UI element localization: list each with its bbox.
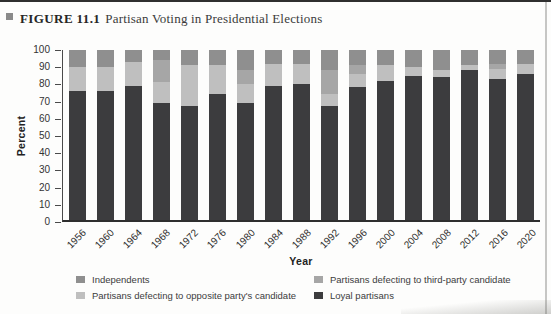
y-tick-mark	[55, 170, 61, 171]
x-tick-label-text: 1988	[289, 227, 313, 251]
x-tick-label-text: 1980	[233, 227, 257, 251]
bar-segment	[181, 106, 198, 220]
bar-segment	[125, 62, 142, 86]
x-tick-label-text: 1976	[205, 227, 229, 251]
y-tick-label-20: 20	[39, 183, 50, 193]
y-tick-label-10: 10	[39, 200, 50, 210]
bar-2016	[489, 50, 506, 220]
bar-segment	[461, 70, 478, 220]
y-tick-mark	[55, 50, 61, 51]
y-tick-mark	[55, 67, 61, 68]
bar-segment	[181, 50, 198, 65]
bar-segment	[69, 50, 86, 67]
bar-segment	[237, 70, 254, 84]
bar-2020	[517, 50, 534, 220]
legend-label: Loyal partisans	[330, 290, 394, 301]
x-tick-label-text: 2016	[486, 227, 510, 251]
third-party-defectors-swatch-icon	[314, 276, 323, 283]
bar-segment	[69, 67, 86, 91]
legend-item-independents: Independents	[76, 274, 304, 285]
bar-segment	[349, 65, 366, 74]
y-tick-mark	[55, 102, 61, 103]
x-tick-label-text: 1956	[64, 227, 88, 251]
y-tick-label-30: 30	[39, 165, 50, 175]
bar-segment	[125, 86, 142, 220]
bar-segment	[209, 94, 226, 220]
bar-segment	[293, 84, 310, 220]
bar-segment	[153, 50, 170, 60]
y-tick-label-90: 90	[39, 62, 50, 72]
bar-1956	[69, 50, 86, 220]
bar-1984	[265, 50, 282, 220]
bar-segment	[489, 69, 506, 79]
bar-segment	[209, 65, 226, 94]
y-tick-label-50: 50	[39, 131, 50, 141]
bar-segment	[349, 50, 366, 65]
bar-segment	[377, 50, 394, 65]
bar-segment	[489, 79, 506, 220]
legend-item-third-party-defectors: Partisans defecting to third-party candi…	[314, 274, 511, 285]
bar-segment	[97, 67, 114, 91]
legend-item-loyal-partisans: Loyal partisans	[314, 290, 511, 301]
y-tick-label-80: 80	[39, 79, 50, 89]
y-tick-label-60: 60	[39, 114, 50, 124]
opposite-party-defectors-swatch-icon	[76, 292, 85, 299]
x-tick-label-text: 1960	[92, 227, 116, 251]
bar-segment	[489, 50, 506, 64]
bar-1976	[209, 50, 226, 220]
figure-page: FIGURE 11.1Partisan Voting in Presidenti…	[0, 0, 551, 314]
legend-item-opposite-party-defectors: Partisans defecting to opposite party's …	[76, 290, 304, 301]
bar-2012	[461, 50, 478, 220]
bar-1988	[293, 50, 310, 220]
bar-segment	[153, 60, 170, 82]
x-tick-label-text: 2020	[514, 227, 538, 251]
x-tick-label-text: 2008	[430, 227, 454, 251]
bar-segment	[321, 70, 338, 94]
x-tick-label-text: 1964	[121, 227, 145, 251]
bar-segment	[181, 65, 198, 106]
bar-segment	[209, 50, 226, 65]
stacked-bar-chart: Percent 0102030405060708090100 195619601…	[0, 0, 551, 314]
x-tick-label-text: 2004	[402, 227, 426, 251]
bar-segment	[349, 74, 366, 88]
y-tick-mark	[55, 153, 61, 154]
x-axis-tick-labels: 1956196019641968197219761980198419881992…	[62, 224, 540, 258]
bar-segment	[517, 64, 534, 74]
bar-segment	[321, 106, 338, 220]
loyal-partisans-swatch-icon	[314, 292, 323, 299]
bar-1992	[321, 50, 338, 220]
bar-segment	[293, 50, 310, 64]
bar-segment	[153, 82, 170, 102]
x-tick-label-text: 1984	[261, 227, 285, 251]
legend-label: Partisans defecting to opposite party's …	[92, 290, 296, 301]
y-tick-mark	[55, 205, 61, 206]
bar-segment	[517, 50, 534, 64]
y-tick-label-70: 70	[39, 97, 50, 107]
bar-segment	[237, 50, 254, 70]
bar-segment	[405, 67, 422, 76]
y-tick-label-100: 100	[33, 45, 50, 55]
bar-segment	[125, 50, 142, 62]
y-tick-mark	[55, 84, 61, 85]
bar-segment	[265, 50, 282, 64]
legend-label: Partisans defecting to third-party candi…	[330, 274, 511, 285]
x-tick-label-text: 1968	[149, 227, 173, 251]
bar-2008	[433, 50, 450, 220]
bar-segment	[433, 70, 450, 77]
bar-segment	[237, 84, 254, 103]
bar-segment	[377, 65, 394, 80]
bar-segment	[349, 87, 366, 220]
legend-label: Independents	[92, 274, 150, 285]
bar-segment	[265, 64, 282, 86]
bar-1996	[349, 50, 366, 220]
y-tick-mark	[55, 136, 61, 137]
bar-1960	[97, 50, 114, 220]
bar-1964	[125, 50, 142, 220]
bar-segment	[321, 50, 338, 70]
bar-segment	[265, 86, 282, 220]
bar-segment	[237, 103, 254, 220]
independents-swatch-icon	[76, 276, 85, 283]
x-axis-title: Year	[62, 255, 540, 267]
plot-area	[62, 50, 540, 222]
x-tick-label-text: 1992	[317, 227, 341, 251]
